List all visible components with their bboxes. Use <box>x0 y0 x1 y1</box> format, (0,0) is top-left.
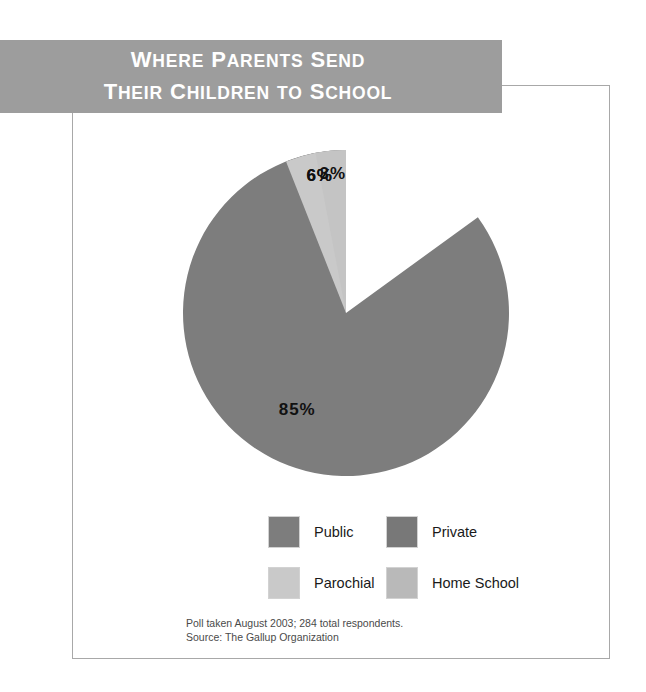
pie-value-label-home-school: 3% <box>320 164 347 183</box>
legend-item-private[interactable]: Private <box>386 516 504 548</box>
legend-swatch-parochial <box>268 567 300 599</box>
legend-item-parochial[interactable]: Parochial <box>268 567 386 599</box>
pie-chart-svg: 85%6%6%3% <box>72 113 610 513</box>
legend-swatch-home-school <box>386 567 418 599</box>
title-line-2: TheirChildrentoSchool <box>0 77 496 109</box>
page-title: WhereParentsSend TheirChildrentoSchool <box>0 45 502 109</box>
legend-swatch-private <box>386 516 418 548</box>
pie-slice-group <box>183 150 509 476</box>
pie-slice-public[interactable] <box>183 150 509 476</box>
chart-footnote: Poll taken August 2003; 284 total respon… <box>186 617 403 644</box>
legend-label-private: Private <box>432 524 477 540</box>
legend-label-public: Public <box>314 524 354 540</box>
title-banner: WhereParentsSend TheirChildrentoSchool <box>0 40 502 113</box>
legend-item-home-school[interactable]: Home School <box>386 567 504 599</box>
pie-value-label-public: 85% <box>279 400 316 419</box>
chart-legend: Public Private Parochial Home School <box>268 516 558 618</box>
legend-item-public[interactable]: Public <box>268 516 386 548</box>
pie-chart: 85%6%6%3% <box>72 113 610 513</box>
legend-label-parochial: Parochial <box>314 575 374 591</box>
legend-row: Parochial Home School <box>268 567 558 599</box>
footnote-poll-line: Poll taken August 2003; 284 total respon… <box>186 617 403 631</box>
chart-page: WhereParentsSend TheirChildrentoSchool 8… <box>0 0 646 692</box>
legend-label-home-school: Home School <box>432 575 519 591</box>
legend-row: Public Private <box>268 516 558 548</box>
legend-swatch-public <box>268 516 300 548</box>
title-line-1: WhereParentsSend <box>0 45 496 77</box>
footnote-source-line: Source: The Gallup Organization <box>186 631 403 645</box>
